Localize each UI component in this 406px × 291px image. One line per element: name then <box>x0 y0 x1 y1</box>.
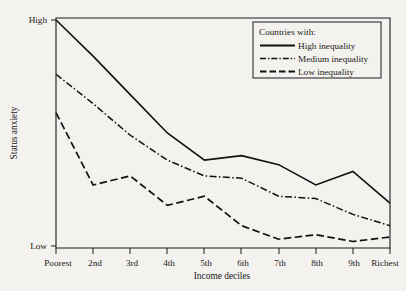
x-tick-label-9: Richest <box>371 258 399 268</box>
y-tick-label-high: High <box>29 15 48 25</box>
x-axis-title: Income deciles <box>194 271 251 281</box>
x-tick-label-4: 5th <box>200 258 212 268</box>
x-tick-label-2: 3rd <box>126 258 139 268</box>
status-anxiety-line-chart: High Low Status anxiety Poorest 2nd 3rd … <box>0 0 406 291</box>
legend-label-medium-inequality: Medium inequality <box>298 54 369 64</box>
legend: Countries with: High inequality Medium i… <box>253 22 381 78</box>
legend-label-high-inequality: High inequality <box>298 41 356 51</box>
legend-label-low-inequality: Low inequality <box>298 67 354 77</box>
x-tick-label-8: 9th <box>348 258 360 268</box>
x-tick-label-6: 7th <box>274 258 286 268</box>
x-tick-label-7: 8th <box>311 258 323 268</box>
figure-container: High Low Status anxiety Poorest 2nd 3rd … <box>0 0 406 291</box>
x-tick-label-0: Poorest <box>44 258 72 268</box>
y-axis-title: Status anxiety <box>9 106 19 159</box>
x-tick-label-5: 6th <box>237 258 249 268</box>
y-axis-ticks <box>51 20 56 246</box>
x-axis-ticks <box>56 248 390 254</box>
legend-title: Countries with: <box>259 27 316 37</box>
y-tick-label-low: Low <box>30 241 47 251</box>
series-medium-inequality <box>56 74 390 225</box>
x-tick-label-1: 2nd <box>88 258 102 268</box>
x-tick-label-3: 4th <box>163 258 175 268</box>
